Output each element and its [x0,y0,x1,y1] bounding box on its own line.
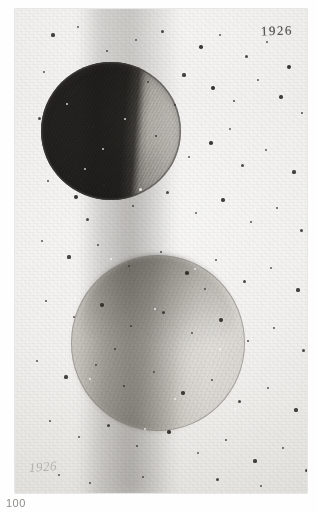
plate-page: 1926 1926 100 [0,0,318,513]
signature-inscription: 1926 [28,458,57,476]
upper-sphere [41,62,181,200]
plate-caption-number: 100 [6,497,26,509]
lower-sphere [71,255,245,431]
upper-sphere-outline [41,62,181,200]
photographic-plate: 1926 1926 [15,9,307,493]
date-inscription: 1926 [261,23,293,40]
lower-sphere-outline [71,255,245,431]
